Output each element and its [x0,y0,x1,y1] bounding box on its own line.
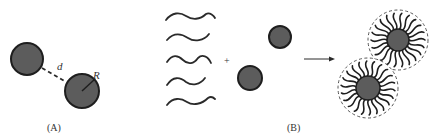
polymer-chain [167,78,205,85]
panel-b: + (B) [166,10,428,134]
polymer-chains [166,13,215,105]
coated-particle-2 [338,58,398,118]
reaction-arrow [304,57,335,62]
particle-a1 [11,43,43,75]
particle-core [356,76,380,100]
panel-a: d R (A) [11,43,100,134]
plus-sign: + [224,55,230,66]
distance-label: d [57,60,63,72]
polymer-chain [167,97,215,105]
polymer-chain [167,34,209,40]
panel-b-caption: (B) [287,122,300,134]
polymer-chain [167,56,211,63]
particle-core [387,29,409,51]
radius-label: R [92,69,100,81]
polymer-chain [166,13,215,20]
panel-a-caption: (A) [47,122,61,134]
diagram-figure: d R (A) + (B) [0,0,437,138]
bare-particle [269,26,291,48]
bare-particle [238,66,262,90]
